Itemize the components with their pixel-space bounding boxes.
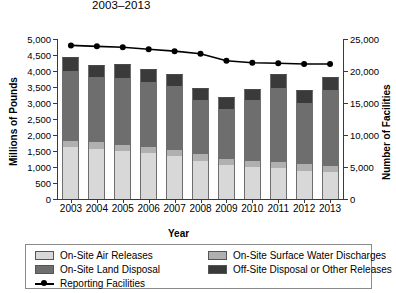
legend-label-water: On-Site Surface Water Discharges	[233, 250, 386, 261]
y-axis-right-title: Number of Facilities	[381, 84, 392, 180]
bar-segment	[88, 77, 105, 142]
bar-segment	[88, 149, 105, 199]
bar-segment	[218, 159, 235, 165]
bar-segment	[192, 100, 209, 154]
y-axis-right-line	[343, 39, 344, 200]
y-axis-right-tick	[344, 71, 348, 72]
bar-segment	[296, 90, 313, 103]
bar-segment	[296, 103, 313, 164]
y-axis-left-line	[57, 39, 58, 200]
legend-label-offsite: Off-Site Disposal or Other Releases	[233, 264, 392, 275]
legend-line-marker-icon	[35, 279, 54, 288]
bar-segment	[62, 71, 79, 141]
bar-segment	[166, 156, 183, 199]
legend-item-air: On-Site Air Releases	[35, 250, 153, 261]
legend-item-offsite: Off-Site Disposal or Other Releases	[208, 264, 392, 275]
y-axis-left-tick	[53, 167, 57, 168]
legend-item-water: On-Site Surface Water Discharges	[208, 250, 386, 261]
bar-segment	[270, 162, 287, 168]
bar-segment	[322, 77, 339, 90]
bar-segment	[296, 171, 313, 199]
y-axis-left-tick-label: 5,000	[27, 34, 51, 45]
y-axis-left-tick	[53, 151, 57, 152]
y-axis-left-tick	[53, 183, 57, 184]
y-axis-left-tick	[53, 199, 57, 200]
bar-segment	[244, 100, 261, 161]
bar-segment	[218, 97, 235, 109]
legend-label-air: On-Site Air Releases	[60, 250, 153, 261]
legend-swatch-water	[208, 251, 227, 260]
legend-item-land: On-Site Land Disposal	[35, 264, 160, 275]
y-axis-left-tick-label: 1,500	[27, 146, 51, 157]
y-axis-left-tick-label: 4,000	[27, 66, 51, 77]
bar-segment	[140, 153, 157, 199]
y-axis-left-tick-label: 4,500	[27, 50, 51, 61]
bar-segment	[192, 88, 209, 100]
bar-segment	[192, 154, 209, 160]
bar-segment	[140, 82, 157, 146]
y-axis-right-tick-label: 10,000	[350, 130, 379, 141]
x-axis-title: Year	[168, 228, 189, 239]
bar-segment	[270, 168, 287, 199]
bar-segment	[218, 165, 235, 199]
bar-segment	[192, 161, 209, 199]
y-axis-left-tick-label: 2,500	[27, 114, 51, 125]
x-axis-tick-label: 2013	[310, 203, 350, 214]
y-axis-right-tick-label: 25,000	[350, 34, 379, 45]
y-axis-left-tick-label: 2,000	[27, 130, 51, 141]
legend-label-facilities: Reporting Facilities	[60, 278, 145, 289]
y-axis-left-tick-label: 1,000	[27, 162, 51, 173]
y-axis-right-tick	[344, 167, 348, 168]
bar-segment	[270, 88, 287, 162]
chart-legend: On-Site Air Releases On-Site Land Dispos…	[25, 244, 372, 289]
y-axis-left-tick	[53, 55, 57, 56]
legend-swatch-air	[35, 251, 54, 260]
bar-segment	[140, 69, 157, 82]
legend-item-facilities: Reporting Facilities	[35, 278, 145, 289]
bar-segment	[322, 172, 339, 199]
y-axis-right-tick	[344, 103, 348, 104]
y-axis-left-title: Millions of Pounds	[8, 77, 19, 166]
chart-container: 2003–2013 Millions of Pounds Number of F…	[0, 0, 396, 293]
bar-segment	[62, 147, 79, 199]
y-axis-left-tick	[53, 103, 57, 104]
bar-segment	[322, 90, 339, 166]
y-axis-left-tick	[53, 135, 57, 136]
y-axis-right-tick	[344, 39, 348, 40]
y-axis-right-tick-label: 5,000	[350, 162, 374, 173]
bar-segment	[296, 164, 313, 170]
y-axis-left-tick-label: 500	[35, 178, 51, 189]
y-axis-left-tick	[53, 71, 57, 72]
y-axis-right-tick	[344, 135, 348, 136]
legend-label-land: On-Site Land Disposal	[60, 264, 160, 275]
y-axis-right-tick-label: 20,000	[350, 66, 379, 77]
bar-segment	[114, 151, 131, 199]
bar-segment	[244, 89, 261, 100]
plot-area: 5,0004,5004,0003,5003,0002,5002,0001,500…	[58, 39, 343, 199]
bar-segment	[166, 86, 183, 149]
bar-segment	[322, 166, 339, 172]
y-axis-left-tick	[53, 119, 57, 120]
bar-segment	[166, 150, 183, 156]
y-axis-left-tick	[53, 87, 57, 88]
bar-segment	[244, 167, 261, 199]
chart-title: 2003–2013	[92, 0, 150, 11]
legend-swatch-offsite	[208, 265, 227, 274]
y-axis-left-tick-label: 3,000	[27, 98, 51, 109]
bar-segment	[140, 147, 157, 153]
bar-segment	[88, 65, 105, 78]
y-axis-left-tick	[53, 39, 57, 40]
bar-segment	[62, 57, 79, 71]
bar-segment	[270, 74, 287, 88]
bar-segment	[88, 142, 105, 149]
bar-segment	[114, 78, 131, 145]
bar-segment	[114, 64, 131, 77]
bar-segment	[244, 161, 261, 167]
bar-segment	[114, 145, 131, 151]
bar-segment	[218, 109, 235, 159]
legend-swatch-land	[35, 265, 54, 274]
y-axis-right-tick-label: 0	[350, 194, 355, 205]
y-axis-left-tick-label: 3,500	[27, 82, 51, 93]
y-axis-right-tick-label: 15,000	[350, 98, 379, 109]
y-axis-right-tick	[344, 199, 348, 200]
